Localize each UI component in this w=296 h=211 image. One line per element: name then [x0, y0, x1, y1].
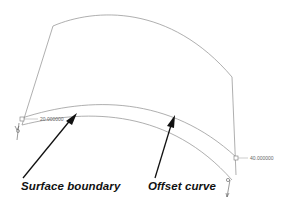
- left-direction-arrow: [15, 123, 19, 140]
- right-endpoint-marker: [234, 156, 238, 160]
- offset-curve: [22, 105, 236, 157]
- left-dimension-value: 20.000000: [40, 116, 64, 122]
- left-endpoint-marker: [20, 117, 24, 121]
- surface-right-edge: [232, 77, 236, 175]
- right-origin-marker: [226, 178, 229, 181]
- surface-top-edge: [53, 15, 232, 77]
- surface-left-edge: [22, 26, 53, 125]
- surface-boundary-curve: [22, 116, 232, 180]
- surface-boundary-arrow-shaft: [23, 118, 72, 178]
- surface-boundary-label: Surface boundary: [21, 180, 120, 192]
- offset-curve-label: Offset curve: [148, 180, 216, 192]
- right-direction-arrow: [226, 180, 230, 197]
- right-dimension-value: 40.000000: [250, 155, 274, 161]
